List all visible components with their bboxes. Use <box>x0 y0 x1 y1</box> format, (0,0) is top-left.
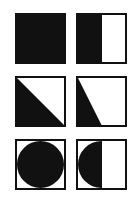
tile-full-circle <box>15 139 66 190</box>
diagonal-triangle-icon <box>17 78 64 125</box>
half-triangle-icon <box>78 78 125 125</box>
tile-half-circle <box>76 139 127 190</box>
tile-full-square <box>15 13 66 64</box>
tile-half-square <box>76 13 127 64</box>
half-filled-square-icon <box>78 15 125 62</box>
filled-square-icon <box>17 15 64 62</box>
half-filled-circle-icon <box>78 141 125 188</box>
filled-circle-icon <box>17 141 64 188</box>
tile-half-triangle <box>76 76 127 127</box>
tile-full-diagonal-triangle <box>15 76 66 127</box>
